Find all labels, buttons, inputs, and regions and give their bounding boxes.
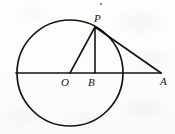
point-label-o: O	[61, 77, 69, 88]
radius-op-line	[70, 27, 95, 73]
geometry-figure: P O B A	[0, 0, 175, 134]
point-label-a: A	[160, 76, 167, 87]
ink-speck	[100, 3, 102, 5]
figure-canvas	[0, 0, 175, 134]
point-label-b: B	[88, 77, 95, 88]
tangent-pa-line	[95, 27, 161, 73]
point-label-p: P	[94, 13, 101, 24]
